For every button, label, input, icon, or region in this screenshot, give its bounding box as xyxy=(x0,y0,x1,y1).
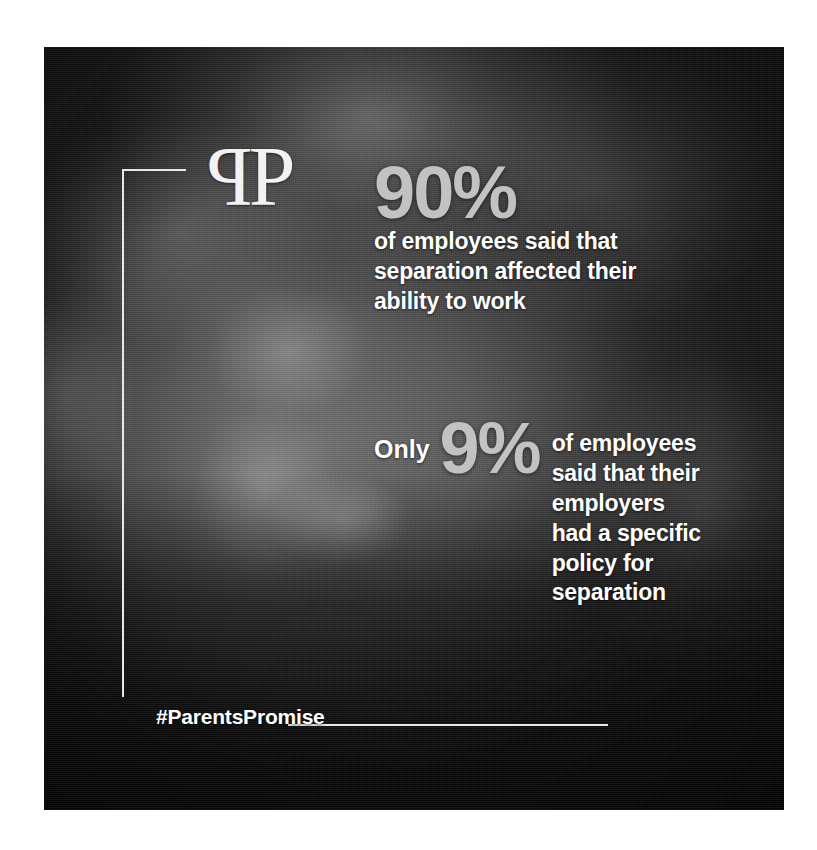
campaign-hashtag: #ParentsPromise xyxy=(156,705,325,729)
stat-nine-line-4: had a specific xyxy=(552,519,701,549)
rule-vertical xyxy=(122,169,124,697)
stat-ninety-text: of employees said that separation affect… xyxy=(374,227,704,317)
stat-nine-line-1: of employees xyxy=(552,429,701,459)
logo-mirrored-p-icon: P xyxy=(208,135,253,219)
stat-ninety-line-1: of employees said that xyxy=(374,227,704,257)
rule-top-horizontal xyxy=(122,169,186,171)
stat-ninety-line-3: ability to work xyxy=(374,287,704,317)
stat-nine-line-6: separation xyxy=(552,578,701,608)
stat-nine-prefix: Only xyxy=(374,437,430,462)
poster-image: P P 90% of employees said that separatio… xyxy=(44,47,784,810)
stat-nine-line-2: said that their xyxy=(552,459,701,489)
stat-nine-headline-row: Only 9% of employees said that their emp… xyxy=(374,415,714,608)
pp-monogram-logo: P P xyxy=(208,135,293,219)
rule-bottom-horizontal xyxy=(288,724,608,726)
stat-ninety-number: 90% xyxy=(374,159,704,227)
stat-block-nine: Only 9% of employees said that their emp… xyxy=(374,415,714,608)
stat-nine-number: 9% xyxy=(440,415,540,481)
stat-block-ninety: 90% of employees said that separation af… xyxy=(374,159,704,317)
stat-nine-line-3: employers xyxy=(552,489,701,519)
logo-p-icon: P xyxy=(249,135,294,219)
stat-ninety-line-2: separation affected their xyxy=(374,257,704,287)
stat-nine-text: of employees said that their employers h… xyxy=(552,429,701,608)
stat-nine-line-5: policy for xyxy=(552,549,701,579)
